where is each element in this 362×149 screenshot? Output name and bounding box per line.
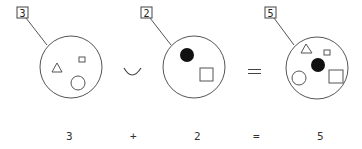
- equation-result: 5: [317, 130, 324, 143]
- equation-b: 2: [194, 130, 201, 143]
- set-union-diagram: 3 2 5 3 + 2 = 5: [0, 0, 362, 149]
- set-a-pointer-line: [26, 18, 47, 45]
- set-result: 5: [265, 7, 348, 99]
- set-a-label: 3: [20, 8, 26, 19]
- union-symbol: [124, 68, 141, 75]
- equation-row: 3 + 2 = 5: [66, 130, 324, 143]
- square-icon: [329, 70, 343, 83]
- set-b-label: 2: [144, 8, 150, 19]
- triangle-icon: [52, 63, 62, 72]
- set-a-circle: [40, 36, 102, 98]
- small-square-icon: [324, 50, 330, 55]
- set-result-label: 5: [268, 8, 274, 19]
- equation-equals: =: [253, 130, 260, 143]
- circle-icon: [292, 71, 306, 85]
- triangle-icon: [301, 44, 312, 53]
- square-icon: [200, 68, 213, 81]
- filled-circle-icon: [180, 48, 194, 62]
- set-a: 3: [17, 7, 102, 98]
- set-b: 2: [141, 7, 225, 98]
- circle-icon: [71, 76, 85, 90]
- filled-circle-icon: [311, 58, 325, 72]
- set-b-pointer-line: [150, 18, 171, 45]
- set-b-circle: [163, 36, 225, 98]
- equation-plus: +: [130, 130, 137, 143]
- set-result-pointer-line: [274, 18, 294, 45]
- equation-a: 3: [66, 130, 73, 143]
- small-square-icon: [79, 57, 85, 62]
- equals-symbol: [248, 70, 261, 74]
